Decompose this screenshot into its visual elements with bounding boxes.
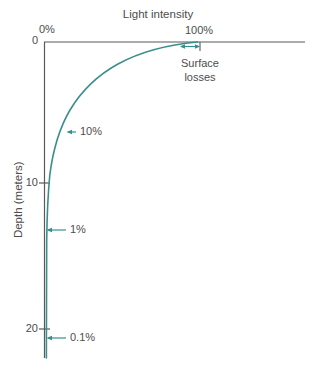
surface-losses-arrow-head-left xyxy=(180,44,185,48)
arrow-head-10-percent xyxy=(67,130,73,135)
light-intensity-curve xyxy=(46,42,197,358)
arrow-head-0.1-percent xyxy=(47,336,53,341)
plot-area xyxy=(0,0,316,375)
light-intensity-depth-chart: Light intensity Depth (meters) 0 10 20 0… xyxy=(0,0,316,375)
surface-losses-arrow-head-right xyxy=(195,44,200,48)
